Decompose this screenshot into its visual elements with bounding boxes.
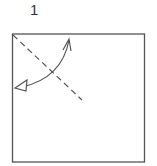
- paper-square: [13, 34, 145, 162]
- origami-diagram: [0, 0, 157, 166]
